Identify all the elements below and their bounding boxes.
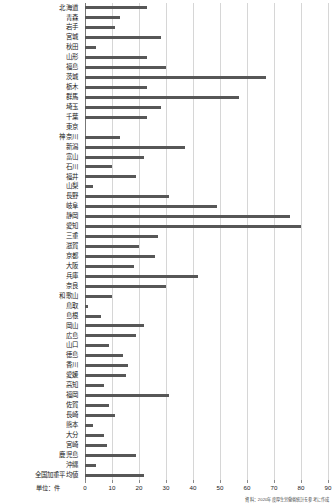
bar-row: [85, 301, 328, 311]
bar-row: [85, 172, 328, 182]
bar: [85, 394, 169, 397]
category-label: 静岡: [66, 213, 78, 219]
bar: [85, 315, 101, 318]
bar-row: [85, 331, 328, 341]
bar: [85, 235, 158, 238]
bar: [85, 245, 139, 248]
x-tick: [85, 480, 86, 483]
x-tick-label: 20: [136, 484, 143, 491]
bar-row: [85, 3, 328, 13]
bar: [85, 295, 112, 298]
bar: [85, 285, 166, 288]
bar-row: [85, 33, 328, 43]
bar-row: [85, 232, 328, 242]
source-note: 資料：2020年度厚生労働省統計を参考に作成: [245, 497, 329, 502]
bar-row: [85, 351, 328, 361]
bar-chart: 北海道青森岩手宮城秋田山形福島茨城栃木群馬埼玉千葉東京神奈川新潟富山石川福井山梨…: [0, 0, 332, 503]
category-label: 島根: [66, 313, 78, 319]
category-label: 北海道: [59, 5, 78, 11]
category-label: 神奈川: [59, 134, 78, 140]
bar: [85, 464, 96, 467]
bar: [85, 324, 144, 327]
category-label: 岡山: [66, 323, 78, 329]
category-label: 岩手: [66, 24, 78, 30]
bar: [85, 354, 123, 357]
category-label: 岐阜: [66, 203, 78, 209]
bar: [85, 165, 112, 168]
category-label: 大阪: [66, 263, 78, 269]
bar-row: [85, 192, 328, 202]
bar-row: [85, 92, 328, 102]
x-axis: 0102030405060708090: [85, 480, 328, 494]
category-label: 新潟: [66, 144, 78, 150]
x-tick-label: 80: [298, 484, 305, 491]
bar: [85, 414, 115, 417]
x-tick: [274, 480, 275, 483]
x-tick: [247, 480, 248, 483]
category-label: 愛媛: [66, 372, 78, 378]
x-tick: [220, 480, 221, 483]
bar: [85, 404, 109, 407]
category-axis-labels: 北海道青森岩手宮城秋田山形福島茨城栃木群馬埼玉千葉東京神奈川新潟富山石川福井山梨…: [0, 3, 82, 480]
bar-row: [85, 53, 328, 63]
bar: [85, 46, 96, 49]
x-tick: [139, 480, 140, 483]
bar: [85, 6, 147, 9]
category-label: 兵庫: [66, 273, 78, 279]
category-label: 徳島: [66, 352, 78, 358]
category-label: 福島: [66, 64, 78, 70]
bar: [85, 146, 185, 149]
category-label: 茨城: [66, 74, 78, 80]
bar: [85, 275, 198, 278]
bar: [85, 374, 126, 377]
x-tick: [301, 480, 302, 483]
bar-row: [85, 381, 328, 391]
bar-row: [85, 311, 328, 321]
category-label: 秋田: [66, 44, 78, 50]
bar: [85, 334, 136, 337]
category-label: 京都: [66, 253, 78, 259]
bar-row: [85, 13, 328, 23]
bar-row: [85, 450, 328, 460]
bar: [85, 384, 104, 387]
category-label: 東京: [66, 124, 78, 130]
bar: [85, 195, 169, 198]
bar-row: [85, 182, 328, 192]
bar: [85, 26, 115, 29]
bar: [85, 156, 144, 159]
bar-row: [85, 341, 328, 351]
bar: [85, 444, 107, 447]
bar: [85, 265, 134, 268]
bar: [85, 106, 161, 109]
bar-row: [85, 63, 328, 73]
category-label: 佐賀: [66, 402, 78, 408]
bar-row: [85, 460, 328, 470]
category-label: 鹿児島: [59, 452, 78, 458]
x-tick: [112, 480, 113, 483]
bar-row: [85, 142, 328, 152]
bar-series: [85, 3, 328, 480]
category-label: 三重: [66, 233, 78, 239]
category-label: 全国加重平均値: [35, 472, 78, 478]
bar: [85, 364, 128, 367]
x-tick: [166, 480, 167, 483]
bar-row: [85, 371, 328, 381]
x-tick-label: 90: [325, 484, 332, 491]
category-label: 鳥取: [66, 303, 78, 309]
x-tick-label: 70: [271, 484, 278, 491]
bar-row: [85, 83, 328, 93]
bar: [85, 424, 93, 427]
bar-row: [85, 23, 328, 33]
bar-row: [85, 242, 328, 252]
bar-row: [85, 361, 328, 371]
bar-row: [85, 152, 328, 162]
bar: [85, 86, 147, 89]
category-label: 宮城: [66, 34, 78, 40]
x-tick-label: 60: [244, 484, 251, 491]
bar-row: [85, 391, 328, 401]
bar-row: [85, 212, 328, 222]
category-label: 沖縄: [66, 462, 78, 468]
category-label: 熊本: [66, 422, 78, 428]
category-label: 長野: [66, 193, 78, 199]
bar-row: [85, 261, 328, 271]
